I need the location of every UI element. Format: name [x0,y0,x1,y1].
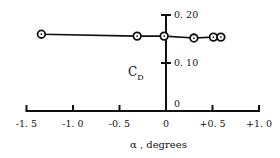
data-point-dot [193,37,195,39]
x-tick-label: -0. 5 [109,118,130,129]
data-point-dot [213,36,215,38]
y-axis-label-subscript: D [137,73,143,82]
data-point-dot [163,35,165,37]
x-axis-label: α , degrees [130,139,187,150]
y-tick-label: 0. 10 [174,57,198,68]
data-point [190,34,198,42]
data-point-dot [40,33,42,35]
y-tick-label: 0. 20 [174,9,198,20]
x-tick-label: -1. 5 [16,118,37,129]
data-point [38,30,46,38]
y-axis-label: CD [128,65,144,82]
y-tick-label: 0 [174,98,180,109]
x-tick-label: +1. 0 [246,118,272,129]
y-axis-label-main: C [128,65,137,79]
x-tick-label: 0 [163,118,169,129]
x-ticks: -1. 5-1. 0-0. 50+0. 5+1. 0 [16,105,272,129]
data-point [133,32,141,40]
chart: -1. 5-1. 0-0. 50+0. 5+1. 0 00. 100. 20 C… [0,0,280,158]
data-point [217,33,225,41]
data-point-dot [220,36,222,38]
x-tick-label: +0. 5 [199,118,225,129]
data-point-dot [136,35,138,37]
data-point [210,33,218,41]
data-point [160,32,168,40]
x-tick-label: -1. 0 [62,118,83,129]
axes [26,15,261,111]
